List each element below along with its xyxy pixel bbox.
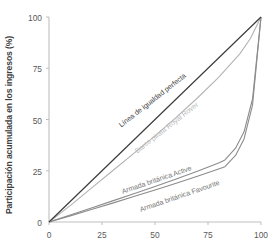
series-paths xyxy=(49,17,261,222)
series-line-equality xyxy=(49,17,261,222)
plot-area xyxy=(0,0,268,249)
lorenz-curve-chart: Participación acumulada en los ingresos … xyxy=(0,0,268,249)
